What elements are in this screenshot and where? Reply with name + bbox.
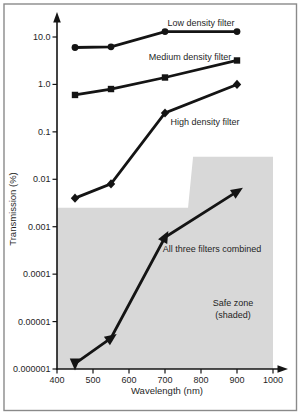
x-tick-label: 700 [157,375,172,385]
data-marker-square [234,57,240,63]
y-tick-label: 0.000001 [13,364,51,374]
y-tick-label: 0.001 [28,222,51,232]
y-tick-label: 0.00001 [18,317,51,327]
series-label-1: Medium density filter [149,52,232,62]
series-label-2: High density filter [170,117,239,127]
data-marker-square [72,92,78,98]
y-axis-title: Transmission (%) [7,172,18,246]
x-tick-label: 900 [229,375,244,385]
transmission-vs-wavelength-chart: 10.01.00.10.010.0010.00010.000010.000001… [0,0,301,414]
y-tick-label: 0.1 [38,127,51,137]
data-marker-circle [234,28,241,35]
x-tick-label: 1000 [263,375,283,385]
data-marker-circle [108,43,115,50]
y-tick-label: 10.0 [33,32,51,42]
series-label-0: Low density filter [167,18,234,28]
x-tick-label: 400 [49,375,64,385]
series-label-3: All three filters combined [163,244,262,254]
x-tick-label: 500 [85,375,100,385]
laser-filter-transmission-figure: 10.01.00.10.010.0010.00010.000010.000001… [0,0,301,414]
y-tick-label: 0.01 [33,174,51,184]
x-tick-label: 600 [121,375,136,385]
data-marker-square [162,74,168,80]
safe-zone-label-line1: Safe zone [213,298,254,308]
x-axis-title: Wavelength (nm) [131,385,203,396]
y-tick-label: 0.0001 [23,269,51,279]
data-marker-circle [72,44,79,51]
data-marker-square [108,86,114,92]
safe-zone-label-line2: (shaded) [215,310,251,320]
data-marker-circle [162,28,169,35]
y-tick-label: 1.0 [38,79,51,89]
x-tick-label: 800 [193,375,208,385]
